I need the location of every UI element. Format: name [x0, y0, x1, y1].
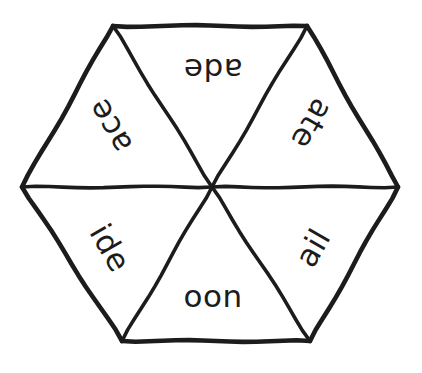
segment-label-oon: oon: [183, 281, 242, 312]
hexagon-word-wheel-canvas: ade ate ail oon ide ace: [0, 0, 422, 373]
segment-label-ade: ade: [183, 54, 242, 85]
